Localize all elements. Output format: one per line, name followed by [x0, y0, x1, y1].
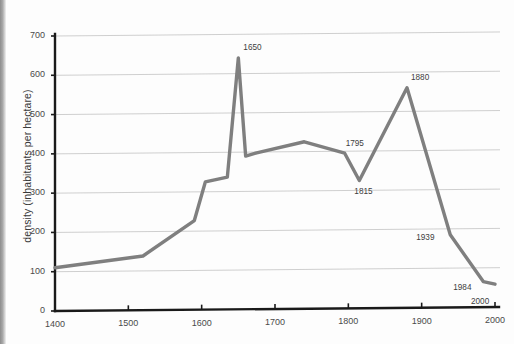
x-tick-label: 1700	[255, 317, 295, 327]
point-label-1880: 1880	[411, 73, 429, 82]
point-label-2000: 2000	[471, 297, 489, 306]
x-tick-label: 1500	[108, 318, 148, 328]
gridline	[55, 71, 500, 75]
point-label-1650: 1650	[243, 43, 261, 52]
gridline	[55, 111, 500, 115]
x-axis-line	[55, 307, 499, 311]
y-tick-label: 200	[11, 226, 45, 236]
y-tick-label: 400	[11, 148, 45, 158]
y-tick-label: 700	[11, 30, 45, 40]
x-tick-label: 2000	[475, 315, 514, 325]
y-tick-label: 500	[11, 109, 45, 119]
gridline	[55, 268, 500, 272]
x-tick-label: 1900	[402, 316, 442, 326]
density-series-line	[55, 58, 495, 284]
chart-page: density (inhabitants per hectare) 010020…	[0, 0, 514, 344]
gridline	[55, 150, 500, 154]
y-axis-title: density (inhabitants per hectare)	[21, 51, 33, 281]
y-tick-label: 600	[11, 69, 45, 79]
gridline	[55, 32, 500, 36]
x-tick-label: 1400	[35, 319, 75, 329]
line-chart: density (inhabitants per hectare) 010020…	[0, 0, 514, 344]
gridline	[55, 189, 500, 193]
y-tick-label: 100	[11, 266, 45, 276]
x-tick-label: 1800	[328, 316, 368, 326]
point-label-1939: 1939	[416, 233, 434, 242]
y-tick-label: 300	[11, 187, 45, 197]
point-label-1815: 1815	[354, 187, 372, 196]
x-tick-label: 1600	[182, 318, 222, 328]
point-label-1795: 1795	[346, 139, 364, 148]
y-tick-label: 0	[11, 305, 45, 315]
point-label-1984: 1984	[453, 283, 471, 292]
